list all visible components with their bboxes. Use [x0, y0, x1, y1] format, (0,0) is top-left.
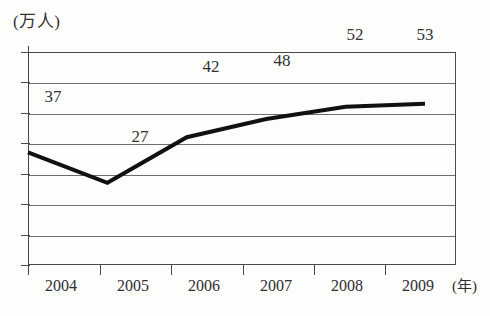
y-axis-tick	[21, 204, 30, 205]
y-axis-tick	[21, 143, 30, 144]
x-axis-label-2008: 2008	[315, 278, 379, 294]
data-label-2006: 42	[186, 58, 236, 75]
x-axis-tick	[28, 265, 29, 275]
y-axis-tick	[21, 82, 30, 83]
y-axis-tick	[21, 235, 30, 236]
y-axis-unit-label: (万人)	[13, 13, 60, 30]
x-axis-tick	[100, 265, 101, 275]
y-axis-tick	[21, 174, 30, 175]
plot-area	[28, 52, 456, 265]
gridline	[29, 205, 455, 206]
x-axis-label-2004: 2004	[29, 278, 93, 294]
data-label-2007: 48	[257, 52, 307, 69]
gridline	[29, 83, 455, 84]
x-axis-label-2006: 2006	[172, 278, 236, 294]
x-axis-label-2009: 2009	[386, 278, 450, 294]
y-axis-tick	[21, 113, 30, 114]
y-axis-line	[28, 46, 29, 270]
gridline	[29, 114, 455, 115]
data-label-2009: 53	[400, 26, 450, 43]
x-axis-tick	[385, 265, 386, 275]
gridline	[29, 236, 455, 237]
x-axis-tick	[171, 265, 172, 275]
chart-figure: (万人) 2004 2005 2006 2007 2008 2009 (年) 3…	[0, 0, 490, 316]
gridline	[29, 175, 455, 176]
x-axis-label-2005: 2005	[101, 278, 165, 294]
data-label-2008: 52	[330, 26, 380, 43]
y-axis-tick	[21, 52, 30, 53]
x-axis-tick	[243, 265, 244, 275]
x-axis-unit-label: (年)	[452, 279, 477, 294]
data-label-2005: 27	[115, 128, 165, 145]
data-label-2004: 37	[28, 88, 78, 105]
x-axis-tick	[314, 265, 315, 275]
gridline	[29, 144, 455, 145]
x-axis-label-2007: 2007	[244, 278, 308, 294]
